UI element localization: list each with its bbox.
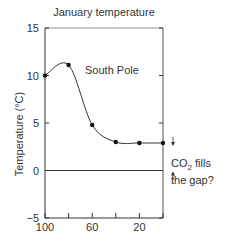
temperature-chart: January temperature Temperature (°C) −50… — [0, 0, 225, 245]
x-tick-label: 100 — [36, 221, 54, 233]
y-tick-label: 15 — [27, 22, 39, 34]
data-point — [114, 140, 118, 144]
data-point — [66, 63, 70, 67]
data-point — [161, 141, 165, 145]
co2-annotation: CO2 fills the gap? — [171, 157, 214, 187]
y-tick-label: 5 — [33, 117, 39, 129]
plot-area: −50510151006020 — [0, 0, 225, 245]
arrow-down-icon — [171, 142, 175, 146]
x-tick-label: 20 — [133, 221, 145, 233]
y-tick-label: 10 — [27, 70, 39, 82]
data-point — [43, 73, 47, 77]
data-point — [90, 123, 94, 127]
x-tick-label: 60 — [86, 221, 98, 233]
y-tick-label: 0 — [33, 165, 39, 177]
series-label: South Pole — [85, 64, 139, 77]
annot-line2: the gap? — [171, 174, 214, 187]
annot-co: CO — [171, 157, 188, 169]
annot-fills: fills — [192, 157, 211, 169]
data-point — [137, 141, 141, 145]
